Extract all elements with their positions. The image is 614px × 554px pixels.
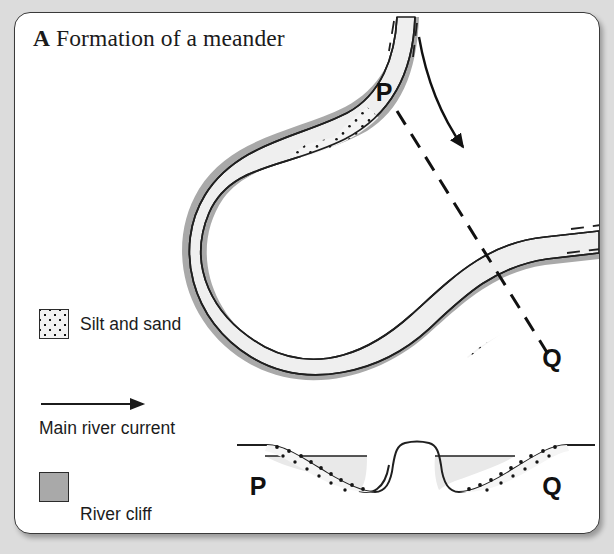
page-background: A Formation of a meander — [0, 0, 614, 554]
main-river-current-arrow — [419, 37, 463, 147]
gray-swatch — [39, 472, 69, 502]
map-label-q: Q — [542, 344, 561, 372]
meander-diagram: P Q — [15, 13, 600, 534]
legend-label-silt: Silt and sand — [80, 314, 181, 335]
legend-item-current: Main river current — [33, 393, 248, 449]
map-label-p: P — [376, 78, 393, 106]
river-channel — [189, 17, 599, 375]
legend-item-cliff: River cliff — [33, 472, 248, 514]
legend-item-silt: Silt and sand — [33, 309, 248, 351]
legend: Silt and sand Main river current River c… — [33, 309, 248, 351]
arrow-right-icon — [39, 393, 169, 415]
section-label-p: P — [250, 472, 267, 500]
bank-continuation-dashes — [389, 21, 600, 253]
legend-label-cliff: River cliff — [80, 504, 152, 525]
figure-card: A Formation of a meander — [14, 12, 600, 534]
legend-label-current: Main river current — [39, 418, 175, 439]
stipple-swatch — [39, 309, 69, 339]
section-label-q: Q — [542, 472, 561, 500]
cross-section-view: P Q — [237, 442, 595, 501]
